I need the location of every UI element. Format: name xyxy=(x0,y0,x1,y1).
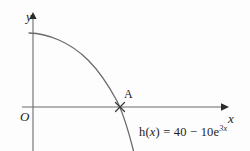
x-axis-label: x xyxy=(228,112,234,125)
equation-exponent: 3x xyxy=(219,124,227,133)
function-equation-label: h(x) = 40 − 10e3x xyxy=(139,126,227,139)
equation-body: ) = 40 − 10e xyxy=(156,125,220,139)
origin-label: O xyxy=(20,110,29,123)
function-curve xyxy=(29,33,134,151)
x-axis-arrow-icon xyxy=(221,103,229,111)
graph-figure: y x O A h(x) = 40 − 10e3x xyxy=(0,0,250,151)
equation-prefix: h( xyxy=(139,125,150,139)
point-a-label: A xyxy=(124,88,133,100)
y-axis-label: y xyxy=(26,10,32,23)
